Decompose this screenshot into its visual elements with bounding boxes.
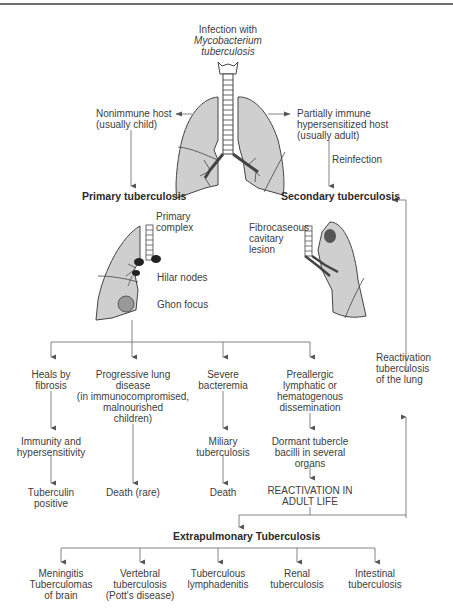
hilar-nodes-label: Hilar nodes <box>157 272 208 283</box>
primary-complex-label: Primary complex <box>156 211 193 233</box>
immunity-hypersensitivity: Immunity and hypersensitivity <box>1 436 101 458</box>
title-organism-species: tuberculosis <box>201 46 254 57</box>
infection-title: Infection with Mycobacterium tuberculosi… <box>178 24 278 57</box>
death-rare: Death (rare) <box>93 487 173 498</box>
reinfection-label: Reinfection <box>332 154 382 165</box>
nonimmune-host-label: Nonimmune host (usually child) <box>96 108 172 130</box>
fibrocaseous-lesion-label: Fibrocaseous cavitary lesion <box>249 222 309 255</box>
extrapulmonary-item-lymphadenitis: Tuberculous lymphadenitis <box>173 568 263 590</box>
dormant-tubercle-bacilli: Dormant tubercle bacilli in several orga… <box>260 436 360 469</box>
primary-tuberculosis-heading: Primary tuberculosis <box>82 191 186 202</box>
extrapulmonary-item-vertebral: Vertebral tuberculosis (Pott's disease) <box>95 568 185 601</box>
reactivation-adult-life: REACTIVATION IN ADULT LIFE <box>260 485 360 507</box>
extrapulmonary-item-renal: Renal tuberculosis <box>252 568 342 590</box>
extrapulmonary-heading: Extrapulmonary Tuberculosis <box>173 531 320 542</box>
partial-immune-host-label: Partially immune hypersensitized host (u… <box>297 108 388 141</box>
preallergic-dissemination: Preallergic lymphatic or hematogenous di… <box>260 369 360 413</box>
tuberculin-positive: Tuberculin positive <box>11 487 91 509</box>
title-line: Infection with <box>178 24 278 35</box>
ghon-focus-label: Ghon focus <box>157 299 208 310</box>
death: Death <box>183 487 263 498</box>
extrapulmonary-item-meningitis: Meningitis Tuberculomas of brain <box>16 568 106 601</box>
primary-lung-illustration <box>96 225 161 320</box>
severe-bacteremia: Severe bacteremia <box>183 369 263 391</box>
secondary-tuberculosis-heading: Secondary tuberculosis <box>281 191 400 202</box>
title-organism-genus: Mycobacterium <box>194 35 262 46</box>
reactivation-lung-label: Reactivation tuberculosis of the lung <box>376 352 431 385</box>
miliary-tuberculosis: Miliary tuberculosis <box>183 436 263 458</box>
secondary-lung-illustration <box>305 222 366 318</box>
lungs-illustration <box>176 62 285 198</box>
flow-diagram-graphics <box>0 0 453 610</box>
extrapulmonary-item-intestinal: Intestinal tuberculosis <box>330 568 420 590</box>
progressive-lung-disease: Progressive lung disease (in immunocompr… <box>73 369 193 424</box>
